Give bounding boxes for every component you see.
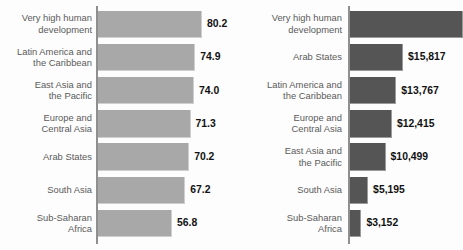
bar (350, 177, 368, 204)
bar-value-label: 67.2 (190, 177, 210, 203)
category-label: Arab States (2, 140, 92, 173)
category-label: Sub-Saharan Africa (2, 206, 92, 239)
bar (98, 143, 189, 170)
bar-row: East Asia and the Pacific$10,499 (231, 140, 462, 173)
category-label: Latin America and the Caribbean (243, 74, 342, 107)
bar (350, 44, 403, 71)
category-label: South Asia (2, 173, 92, 206)
bar-value-label: 56.8 (177, 210, 197, 236)
bar-value-label: 71.3 (196, 110, 216, 136)
category-label: South Asia (243, 173, 342, 206)
bar (98, 11, 202, 38)
bar-row: Sub-Saharan Africa$3,152 (231, 206, 462, 239)
bar-value-label: 70.2 (194, 143, 214, 169)
bar (98, 44, 195, 71)
bar-value-label: $12,415 (397, 110, 435, 136)
bar-value-label: $5,195 (373, 177, 405, 203)
category-label: Latin America and the Caribbean (2, 40, 92, 73)
category-label: Arab States (243, 40, 342, 73)
bar-value-label: 80.2 (207, 11, 227, 37)
bar-value-label: $10,499 (391, 143, 429, 169)
bar-row: Europe and Central Asia$12,415 (231, 107, 462, 140)
chart-panel-life-expectancy: Very high human development80.2Latin Ame… (0, 0, 231, 250)
chart-panel-gross-national-income-per-capita: Very high human developmentArab States$1… (231, 0, 462, 250)
bar (350, 110, 392, 137)
bar-value-label: $13,767 (401, 77, 439, 103)
bar (350, 11, 463, 38)
bar-row: East Asia and the Pacific74.0 (0, 74, 231, 107)
bar-row: Latin America and the Caribbean$13,767 (231, 74, 462, 107)
bar (98, 177, 185, 204)
bar-row: Very high human development80.2 (0, 7, 231, 40)
bar-value-label: $15,817 (408, 44, 446, 70)
bar-value-label: $3,152 (366, 210, 398, 236)
bar (350, 143, 386, 170)
category-label: East Asia and the Pacific (243, 140, 342, 173)
bar (350, 210, 361, 237)
bar-row: Arab States70.2 (0, 140, 231, 173)
bar-row: Arab States$15,817 (231, 40, 462, 73)
bar-row: Latin America and the Caribbean74.9 (0, 40, 231, 73)
bar-value-label: 74.9 (200, 44, 220, 70)
category-label: East Asia and the Pacific (2, 74, 92, 107)
bar-row: South Asia$5,195 (231, 173, 462, 206)
bar (350, 77, 396, 104)
category-label: Europe and Central Asia (2, 107, 92, 140)
bar (98, 77, 194, 104)
bar-row: Very high human development (231, 7, 462, 40)
bar (98, 210, 172, 237)
bar-row: South Asia67.2 (0, 173, 231, 206)
bar-value-label: 74.0 (199, 77, 219, 103)
category-label: Europe and Central Asia (243, 107, 342, 140)
category-label: Very high human development (243, 7, 342, 40)
bar-row: Sub-Saharan Africa56.8 (0, 206, 231, 239)
bar-row: Europe and Central Asia71.3 (0, 107, 231, 140)
category-label: Very high human development (2, 7, 92, 40)
category-label: Sub-Saharan Africa (243, 206, 342, 239)
bar (98, 110, 191, 137)
